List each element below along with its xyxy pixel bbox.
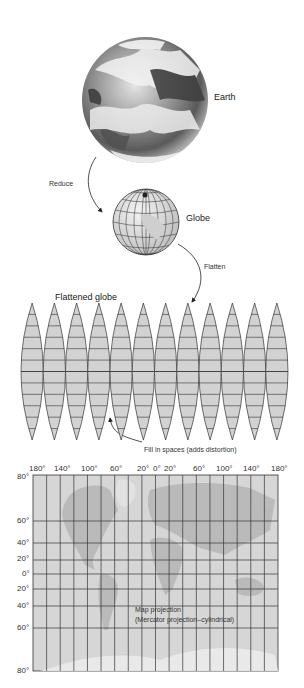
lon-label: 180° bbox=[29, 464, 46, 473]
flattened-globe-label: Flattened globe bbox=[55, 292, 117, 302]
diagram-graphics bbox=[0, 0, 304, 688]
flatten-label: Flatten bbox=[204, 263, 225, 270]
lon-label: 140° bbox=[243, 464, 260, 473]
flattened-globe-gores bbox=[21, 303, 288, 440]
lon-label: 20° bbox=[164, 464, 176, 473]
lat-label: 20° bbox=[17, 584, 29, 593]
lat-label: 40° bbox=[17, 601, 29, 610]
lon-label: 0° bbox=[153, 464, 161, 473]
lat-label: 80° bbox=[17, 472, 29, 481]
lat-label: 20° bbox=[17, 554, 29, 563]
lon-label: 60° bbox=[110, 464, 122, 473]
lat-label: 80° bbox=[17, 666, 29, 675]
reduce-label: Reduce bbox=[49, 180, 73, 187]
lon-label: 60° bbox=[193, 464, 205, 473]
lon-label: 100° bbox=[216, 464, 233, 473]
reduce-arrow bbox=[88, 157, 102, 212]
globe-image bbox=[113, 189, 179, 255]
lon-label: 180° bbox=[271, 464, 288, 473]
map-projection-label: Map projection bbox=[135, 606, 181, 613]
lon-label: 140° bbox=[54, 464, 71, 473]
flatten-arrow bbox=[178, 244, 201, 302]
fill-in-spaces-label: Fill in spaces (adds distortion) bbox=[144, 446, 237, 453]
lon-label: 100° bbox=[81, 464, 98, 473]
globe-label: Globe bbox=[186, 213, 210, 223]
lat-label: 40° bbox=[17, 538, 29, 547]
earth-image bbox=[82, 37, 208, 167]
earth-label: Earth bbox=[214, 92, 236, 102]
lon-label: 20° bbox=[137, 464, 149, 473]
lat-label: 0° bbox=[22, 569, 30, 578]
lat-label: 60° bbox=[17, 623, 29, 632]
map-projection-sublabel: (Mercator projection–cylindrical) bbox=[135, 616, 234, 623]
lat-label: 60° bbox=[17, 516, 29, 525]
mercator-map bbox=[33, 475, 278, 671]
